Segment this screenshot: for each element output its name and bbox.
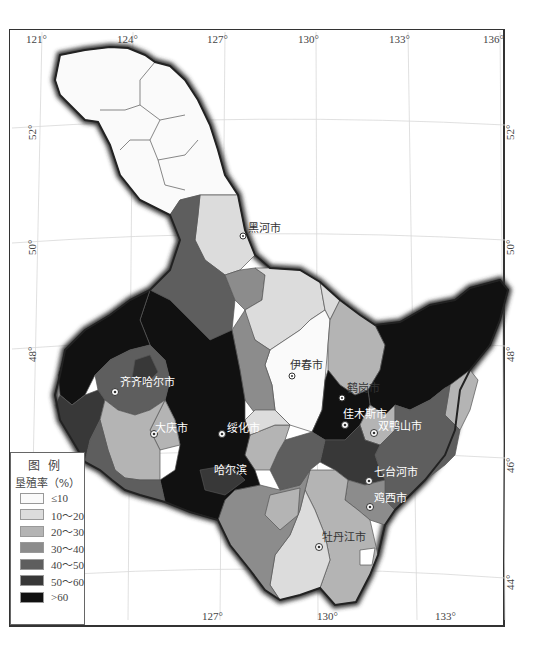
- tick-top-121: 121°: [26, 33, 47, 45]
- legend-swatch: [20, 592, 44, 603]
- legend-label: 50～60: [51, 573, 84, 589]
- legend-label: 10～20: [51, 507, 84, 523]
- tick-right-50: 50°: [504, 240, 516, 255]
- legend-label: >60: [51, 591, 68, 603]
- city-label-shuangyashan: 双鸭山市: [378, 419, 422, 433]
- legend-title: 图例: [11, 456, 84, 473]
- legend: 图例 垦殖率（%） ≤1010～2020～3030～4040～5050～60>6…: [10, 452, 85, 625]
- legend-swatch: [20, 559, 44, 570]
- tick-right-52: 52°: [504, 125, 516, 140]
- city-label-jiamusi: 佳木斯市: [343, 407, 387, 421]
- city-label-daqing: 大庆市: [155, 421, 188, 435]
- parallel-50: [12, 234, 505, 243]
- tick-left-52: 52°: [26, 125, 38, 140]
- city-label-yichun: 伊春市: [290, 358, 323, 372]
- legend-item: 20～30: [20, 523, 84, 540]
- city-label-hegang: 鹤岗市: [347, 381, 380, 395]
- legend-swatch: [20, 575, 44, 586]
- tick-right-46: 46°: [504, 458, 516, 473]
- legend-label: 40～50: [51, 556, 84, 572]
- legend-label: ≤10: [51, 492, 68, 504]
- legend-swatch: [20, 493, 44, 504]
- tick-bottom-127: 127°: [202, 610, 223, 622]
- legend-item: ≤10: [20, 490, 84, 507]
- tick-top-136: 136°: [483, 33, 504, 45]
- tick-top-127: 127°: [207, 33, 228, 45]
- legend-swatch: [20, 542, 44, 553]
- city-label-qiqihar: 齐齐哈尔市: [120, 375, 175, 389]
- city-label-qitaihe: 七台河市: [374, 465, 418, 479]
- city-label-harbin: 哈尔滨: [214, 463, 247, 477]
- tick-bottom-133: 133°: [435, 610, 456, 622]
- legend-swatch: [20, 526, 44, 537]
- legend-label: 30～40: [51, 540, 84, 556]
- tick-bottom-130: 130°: [317, 610, 338, 622]
- city-label-jixi: 鸡西市: [374, 491, 407, 505]
- tick-left-50: 50°: [26, 240, 38, 255]
- legend-item: 10～20: [20, 507, 84, 524]
- legend-item: 30～40: [20, 540, 84, 557]
- regions: [55, 47, 508, 605]
- city-label-heihe: 黑河市: [248, 221, 281, 235]
- city-label-mudanjiang: 牡丹江市: [322, 530, 366, 544]
- tick-right-44: 44°: [504, 575, 516, 590]
- city-harbin[interactable]: 哈尔滨: [214, 463, 247, 477]
- tick-left-48: 48°: [26, 347, 38, 362]
- legend-item: 50～60: [20, 573, 84, 590]
- city-label-suihua: 绥化市: [227, 421, 260, 435]
- tick-top-133: 133°: [389, 33, 410, 45]
- tick-right-48: 48°: [504, 347, 516, 362]
- legend-item: 40～50: [20, 556, 84, 573]
- region-lake: [360, 548, 375, 565]
- legend-item: >60: [20, 589, 84, 606]
- legend-label: 20～30: [51, 523, 84, 539]
- tick-top-130: 130°: [298, 33, 319, 45]
- legend-swatch: [20, 509, 44, 520]
- legend-subtitle: 垦殖率（%）: [11, 474, 84, 490]
- tick-top-124: 124°: [117, 33, 138, 45]
